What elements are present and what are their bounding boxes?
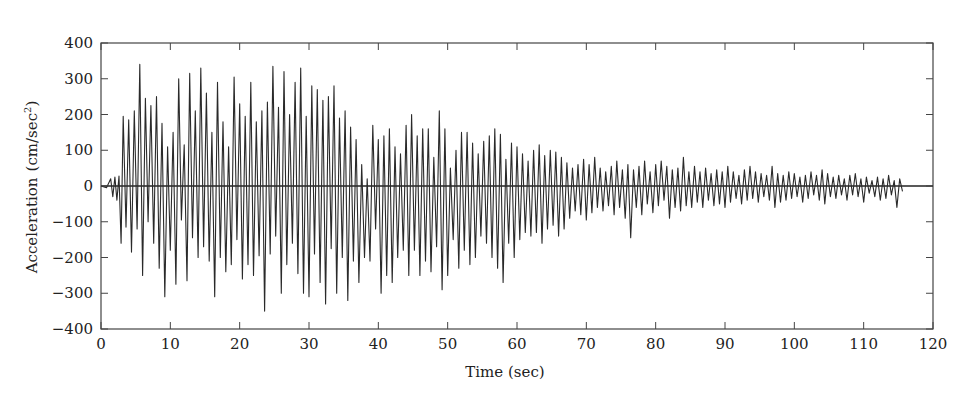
y-tick-label: −200 <box>52 249 93 267</box>
plot-area <box>101 43 933 329</box>
x-tick-label: 10 <box>161 335 180 353</box>
y-tick-label: 200 <box>64 106 93 124</box>
x-tick-label: 30 <box>299 335 318 353</box>
x-tick-label: 70 <box>577 335 596 353</box>
y-tick-label: 400 <box>64 34 93 52</box>
y-tick-label: 100 <box>64 141 93 159</box>
y-tick-label: −100 <box>52 213 93 231</box>
y-tick-label: 0 <box>83 177 93 195</box>
x-tick-label: 110 <box>849 335 878 353</box>
x-tick-label: 90 <box>715 335 734 353</box>
y-axis-title-main: Acceleration <box>23 177 41 274</box>
x-tick-label: 20 <box>230 335 249 353</box>
x-axis-title: Time (sec) <box>465 363 544 381</box>
x-tick-label: 40 <box>369 335 388 353</box>
x-tick-label: 100 <box>780 335 809 353</box>
x-tick-label: 60 <box>507 335 526 353</box>
y-tick-label: 300 <box>64 70 93 88</box>
y-axis-title: Acceleration(cm/sec2) <box>22 101 41 275</box>
y-tick-label: −400 <box>52 320 93 338</box>
y-axis-title-close: ) <box>23 101 41 107</box>
acceleration-chart: 0102030405060708090100110120 40030020010… <box>0 0 960 402</box>
x-tick-label: 120 <box>919 335 948 353</box>
y-axis-title-unit: (cm/sec <box>23 113 41 172</box>
y-tick-label: −300 <box>52 284 93 302</box>
x-tick-label: 0 <box>96 335 106 353</box>
x-tick-label: 50 <box>438 335 457 353</box>
x-tick-label: 80 <box>646 335 665 353</box>
series-line-0 <box>101 64 903 311</box>
